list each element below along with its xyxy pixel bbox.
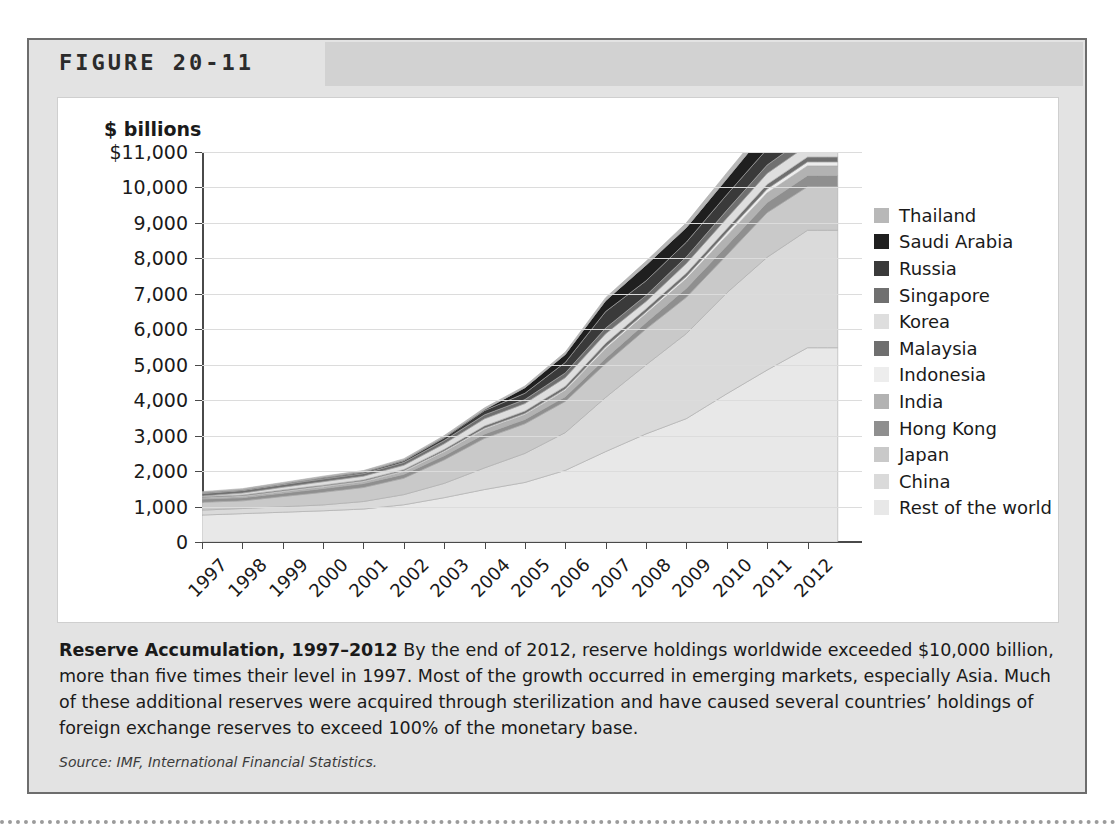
gridline xyxy=(202,152,862,153)
y-tick-mark xyxy=(195,294,202,295)
gridline xyxy=(202,471,862,472)
legend-label: Indonesia xyxy=(899,364,986,385)
gridline xyxy=(202,329,862,330)
y-tick-mark xyxy=(195,223,202,224)
y-axis-title: $ billions xyxy=(104,118,201,140)
legend-item[interactable]: Japan xyxy=(874,441,1064,468)
legend-label: China xyxy=(899,471,950,492)
y-tick-mark xyxy=(195,507,202,508)
x-tick-label: 1998 xyxy=(224,554,271,601)
legend-item[interactable]: Malaysia xyxy=(874,335,1064,362)
gridline xyxy=(202,507,862,508)
figure-header-shade xyxy=(325,42,1083,86)
legend-swatch-icon xyxy=(874,421,889,436)
legend-swatch-icon xyxy=(874,261,889,276)
x-tick-label: 2004 xyxy=(466,554,513,601)
x-tick-mark xyxy=(727,542,728,549)
x-tick-mark xyxy=(646,542,647,549)
plot-area: 01,0002,0003,0004,0005,0006,0007,0008,00… xyxy=(202,152,862,542)
gridline xyxy=(202,436,862,437)
y-tick-mark xyxy=(195,187,202,188)
y-tick-label: 5,000 xyxy=(134,354,188,376)
x-tick-label: 2001 xyxy=(345,554,392,601)
x-tick-label: 2003 xyxy=(426,554,473,601)
x-tick-mark xyxy=(485,542,486,549)
legend-label: Hong Kong xyxy=(899,418,997,439)
legend-swatch-icon xyxy=(874,288,889,303)
y-tick-label: 0 xyxy=(176,531,188,553)
y-tick-label: $11,000 xyxy=(109,141,188,163)
legend-item[interactable]: Singapore xyxy=(874,282,1064,309)
x-tick-label: 2002 xyxy=(385,554,432,601)
legend-item[interactable]: China xyxy=(874,468,1064,495)
y-tick-label: 2,000 xyxy=(134,460,188,482)
y-tick-label: 10,000 xyxy=(122,176,188,198)
y-tick-label: 6,000 xyxy=(134,318,188,340)
x-tick-mark xyxy=(606,542,607,549)
legend-item[interactable]: Russia xyxy=(874,255,1064,282)
legend-item[interactable]: India xyxy=(874,388,1064,415)
y-tick-label: 1,000 xyxy=(134,496,188,518)
x-tick-mark xyxy=(444,542,445,549)
x-tick-label: 1997 xyxy=(184,554,231,601)
figure-header-bar: FIGURE 20-11 xyxy=(29,40,1085,88)
gridline xyxy=(202,223,862,224)
caption-title: Reserve Accumulation, 1997–2012 xyxy=(59,640,398,660)
figure-number-label: FIGURE 20-11 xyxy=(59,50,254,75)
x-tick-mark xyxy=(404,542,405,549)
x-tick-mark xyxy=(808,542,809,549)
legend-label: Korea xyxy=(899,311,950,332)
legend-swatch-icon xyxy=(874,208,889,223)
y-tick-label: 8,000 xyxy=(134,247,188,269)
x-tick-mark xyxy=(363,542,364,549)
x-tick-label: 2007 xyxy=(587,554,634,601)
chart-panel: $ billions 01,0002,0003,0004,0005,0006,0… xyxy=(57,97,1059,623)
chart-legend: ThailandSaudi ArabiaRussiaSingaporeKorea… xyxy=(874,202,1064,521)
legend-item[interactable]: Indonesia xyxy=(874,362,1064,389)
y-tick-mark xyxy=(195,471,202,472)
x-tick-mark xyxy=(283,542,284,549)
legend-label: Saudi Arabia xyxy=(899,231,1013,252)
gridline xyxy=(202,365,862,366)
legend-label: Malaysia xyxy=(899,338,978,359)
x-tick-label: 1999 xyxy=(264,554,311,601)
legend-item[interactable]: Rest of the world xyxy=(874,495,1064,522)
x-tick-label: 2010 xyxy=(708,554,755,601)
x-tick-mark xyxy=(242,542,243,549)
gridline xyxy=(202,294,862,295)
y-tick-mark xyxy=(195,329,202,330)
page-bottom-rule xyxy=(0,820,1116,824)
x-tick-mark xyxy=(565,542,566,549)
y-tick-mark xyxy=(195,152,202,153)
x-tick-mark xyxy=(525,542,526,549)
legend-label: India xyxy=(899,391,943,412)
legend-item[interactable]: Hong Kong xyxy=(874,415,1064,442)
legend-label: Rest of the world xyxy=(899,497,1052,518)
x-tick-mark xyxy=(767,542,768,549)
y-tick-mark xyxy=(195,365,202,366)
figure-container: FIGURE 20-11 $ billions 01,0002,0003,000… xyxy=(27,38,1087,794)
gridline xyxy=(202,400,862,401)
y-tick-label: 7,000 xyxy=(134,283,188,305)
y-tick-mark xyxy=(195,258,202,259)
legend-label: Singapore xyxy=(899,285,990,306)
legend-swatch-icon xyxy=(874,474,889,489)
y-tick-mark xyxy=(195,542,202,543)
x-tick-label: 2005 xyxy=(507,554,554,601)
legend-swatch-icon xyxy=(874,394,889,409)
gridline xyxy=(202,258,862,259)
y-tick-label: 4,000 xyxy=(134,389,188,411)
x-tick-mark xyxy=(686,542,687,549)
legend-swatch-icon xyxy=(874,314,889,329)
y-tick-label: 3,000 xyxy=(134,425,188,447)
x-tick-label: 2000 xyxy=(305,554,352,601)
x-tick-label: 2011 xyxy=(749,554,796,601)
legend-item[interactable]: Saudi Arabia xyxy=(874,229,1064,256)
legend-item[interactable]: Thailand xyxy=(874,202,1064,229)
y-tick-mark xyxy=(195,436,202,437)
legend-item[interactable]: Korea xyxy=(874,308,1064,335)
figure-source: Source: IMF, International Financial Sta… xyxy=(59,754,377,770)
gridline xyxy=(202,187,862,188)
legend-label: Russia xyxy=(899,258,957,279)
x-tick-mark xyxy=(323,542,324,549)
